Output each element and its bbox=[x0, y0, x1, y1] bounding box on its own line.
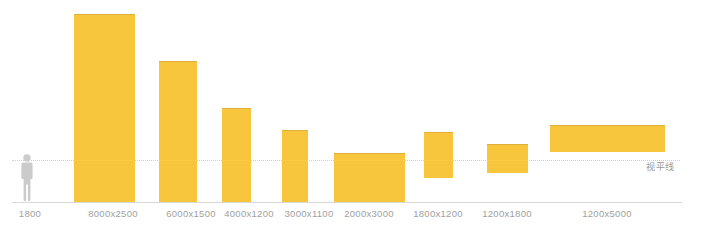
plot-area: 视平线 18008000x25006000x15004000x12003000x… bbox=[0, 0, 708, 232]
eye-level-line bbox=[12, 160, 680, 161]
x-tick-label-1200x1800: 1200x1800 bbox=[482, 208, 532, 219]
bar-4000x1200 bbox=[222, 108, 251, 202]
x-tick-label-2000x3000: 2000x3000 bbox=[344, 208, 394, 219]
x-tick-label-3000x1100: 3000x1100 bbox=[284, 208, 333, 219]
x-tick-label-6000x1500: 6000x1500 bbox=[166, 208, 216, 219]
x-tick-label-1800: 1800 bbox=[19, 208, 41, 219]
bar-1200x5000 bbox=[550, 125, 665, 152]
bar-1800x1200 bbox=[424, 132, 453, 178]
x-tick-label-8000x2500: 8000x2500 bbox=[88, 208, 138, 219]
bar-8000x2500 bbox=[74, 14, 135, 202]
bar-6000x1500 bbox=[159, 61, 197, 202]
bar-3000x1100 bbox=[282, 130, 308, 202]
x-tick-label-4000x1200: 4000x1200 bbox=[224, 208, 274, 219]
chart-canvas: 视平线 18008000x25006000x15004000x12003000x… bbox=[0, 0, 708, 232]
x-tick-label-1800x1200: 1800x1200 bbox=[413, 208, 463, 219]
baseline-axis bbox=[12, 202, 682, 203]
bar-1200x1800 bbox=[487, 144, 528, 173]
eye-level-line-label: 视平线 bbox=[646, 160, 675, 173]
x-tick-label-1200x5000: 1200x5000 bbox=[582, 208, 632, 219]
